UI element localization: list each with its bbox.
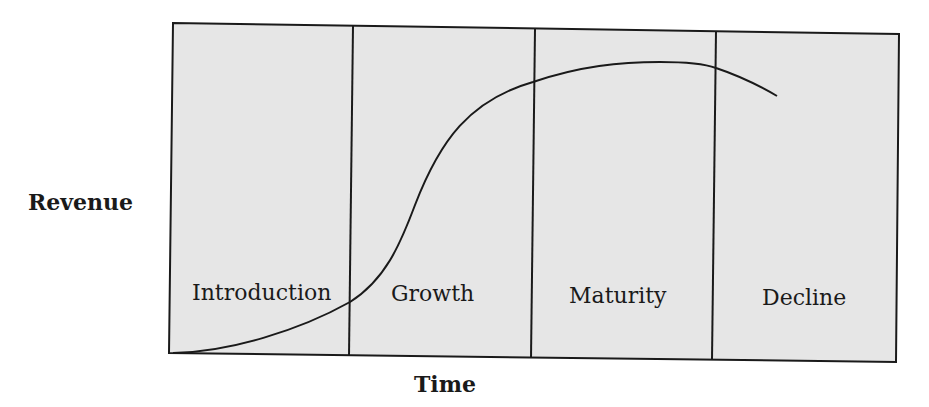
y-axis-label: Revenue (28, 189, 133, 215)
product-life-cycle-diagram: Introduction Growth Maturity Decline Rev… (0, 0, 929, 407)
stage-label-introduction: Introduction (192, 280, 331, 305)
stage-label-maturity: Maturity (569, 283, 667, 308)
stage-label-decline: Decline (762, 285, 846, 310)
stage-label-growth: Growth (391, 281, 474, 306)
x-axis-label: Time (414, 371, 476, 397)
